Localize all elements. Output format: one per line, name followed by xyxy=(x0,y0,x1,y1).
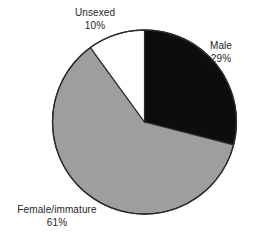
pie-label-unsexed: Unsexed 10% xyxy=(55,6,135,32)
pie-label-unsexed-name: Unsexed xyxy=(55,6,135,19)
pie-label-female-immature-percent: 61% xyxy=(4,216,110,229)
pie-chart-figure: Unsexed 10% Male 29% Female/immature 61% xyxy=(0,0,253,241)
pie-label-male-percent: 29% xyxy=(195,52,247,65)
pie-label-unsexed-percent: 10% xyxy=(55,19,135,32)
pie-label-female-immature-name: Female/immature xyxy=(4,203,110,216)
pie-label-male: Male 29% xyxy=(195,39,247,65)
pie-label-female-immature: Female/immature 61% xyxy=(4,203,110,229)
pie-label-male-name: Male xyxy=(195,39,247,52)
